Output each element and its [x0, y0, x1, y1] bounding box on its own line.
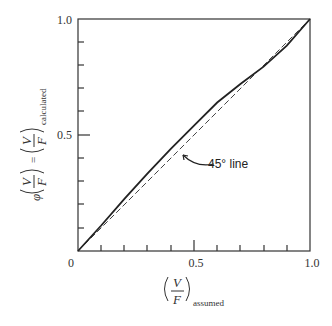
svg-text:assumed: assumed	[193, 298, 224, 308]
chart-canvas: 1.0 0.5 0 0.5 1.0 45° line V F assumed φ…	[0, 0, 332, 326]
svg-text:F: F	[34, 177, 49, 187]
svg-text:V: V	[19, 176, 34, 186]
y-ticks	[78, 42, 90, 228]
x-tick-label-0: 0	[68, 256, 74, 270]
y-tick-label-1: 1.0	[57, 13, 72, 27]
svg-text:=: =	[27, 157, 39, 163]
svg-text:V: V	[19, 135, 34, 145]
svg-text:φ: φ	[28, 194, 43, 201]
annotation-45-line: 45° line	[208, 157, 248, 171]
y-tick-label-05: 0.5	[57, 128, 72, 142]
x-ticks	[101, 240, 287, 251]
svg-text:F: F	[34, 136, 49, 146]
svg-text:V: V	[173, 275, 183, 290]
svg-text:calculated: calculated	[38, 88, 48, 125]
svg-text:F: F	[172, 292, 182, 307]
x-tick-label-1: 1.0	[305, 256, 320, 270]
x-axis-label: V F assumed	[165, 275, 225, 308]
y-axis-label: φ V F = V F calculated	[19, 88, 49, 201]
diagonal-45-line	[78, 19, 310, 251]
x-tick-label-05: 0.5	[189, 256, 204, 270]
